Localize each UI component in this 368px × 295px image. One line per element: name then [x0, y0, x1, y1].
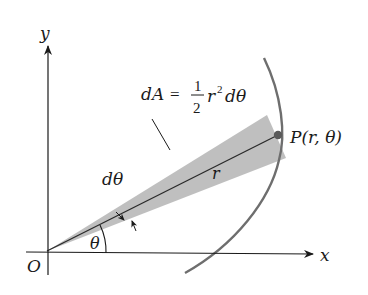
formula-equals: = [170, 85, 180, 104]
area-wedge [47, 115, 286, 251]
formula-dtheta: dθ [225, 86, 246, 106]
radius-label: r [212, 164, 221, 183]
formula-numerator: 1 [194, 78, 202, 94]
formula-exponent: 2 [217, 83, 223, 95]
polar-area-diagram: y x O θ dθ r P(r, θ) dA = 1 2 r 2 dθ [0, 0, 368, 295]
dtheta-arrow-lower [132, 221, 136, 231]
area-formula: dA = 1 2 r 2 dθ [141, 78, 246, 116]
y-axis-label: y [39, 23, 50, 43]
formula-lhs: dA [141, 84, 164, 104]
point-label: P(r, θ) [289, 127, 342, 147]
point-p [274, 131, 282, 139]
formula-denominator: 2 [193, 100, 201, 116]
dtheta-label: dθ [102, 169, 123, 189]
formula-r: r [207, 86, 216, 106]
x-axis [26, 252, 313, 254]
radius-line [47, 135, 278, 251]
origin-label: O [27, 256, 41, 276]
x-axis-label: x [320, 245, 330, 265]
angle-theta-label: θ [90, 234, 100, 253]
formula-leader-line [152, 119, 170, 150]
